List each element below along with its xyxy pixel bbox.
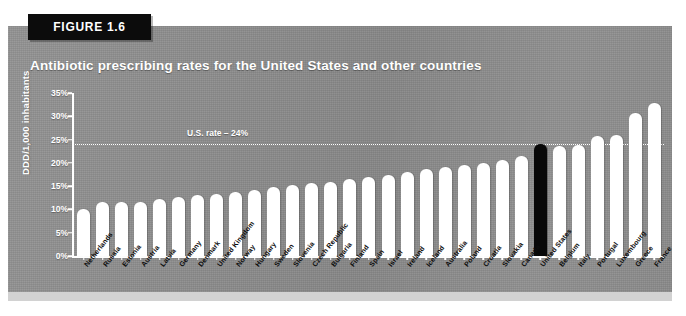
y-axis-tick-label: 20% (51, 158, 68, 168)
x-label-slot: Slovenia (283, 260, 302, 312)
x-label-slot: Estonia (112, 260, 131, 312)
bar-slot (131, 93, 150, 256)
x-label-slot: Austria (131, 260, 150, 312)
bar-france (648, 103, 661, 256)
x-label-slot: Russia (93, 260, 112, 312)
bar-slot (436, 93, 455, 256)
bar-australia (439, 167, 452, 256)
y-axis-tick-mark (68, 162, 72, 164)
bar-slot (74, 93, 93, 256)
figure-badge-label: FIGURE 1.6 (53, 20, 125, 34)
y-axis-tick-label: 30% (51, 111, 68, 121)
bar-slot (493, 93, 512, 256)
y-axis-tick-label: 15% (51, 181, 68, 191)
x-label-slot: Slovakia (493, 260, 512, 312)
bar-slot (150, 93, 169, 256)
bar-slovakia (496, 160, 509, 256)
y-axis-tick-mark (68, 232, 72, 234)
bar-italy (572, 145, 585, 256)
x-label-slot: Greece (626, 260, 645, 312)
x-label-slot: United Kingdom (207, 260, 226, 312)
bar-slot (417, 93, 436, 256)
bar-slot (359, 93, 378, 256)
plot-area: 0%5%10%15%20%25%30%35% U.S. rate – 24% (72, 93, 664, 258)
x-label-slot: United States (531, 260, 550, 312)
x-axis-labels: NetherlandsRussiaEstoniaAustriaLatviaGer… (74, 260, 664, 312)
bar-israel (382, 175, 395, 257)
bar-luxembourg (610, 135, 623, 256)
y-axis-tick-label: 0% (56, 251, 68, 261)
bar-slot (207, 93, 226, 256)
x-label-slot: Australia (436, 260, 455, 312)
bar-slot (455, 93, 474, 256)
x-label-slot: Italy (569, 260, 588, 312)
bar-slot (169, 93, 188, 256)
bar-series (74, 93, 664, 256)
bar-netherlands (77, 209, 90, 256)
y-axis-tick-label: 5% (56, 228, 68, 238)
y-axis-tick-mark (68, 185, 72, 187)
bar-slot (607, 93, 626, 256)
bar-croatia (477, 163, 490, 256)
y-axis-tick-mark (68, 139, 72, 141)
bar-slot (188, 93, 207, 256)
x-label-slot: Croatia (474, 260, 493, 312)
bar-slot (302, 93, 321, 256)
bar-slot (112, 93, 131, 256)
x-label-slot: Norway (226, 260, 245, 312)
y-axis-tick-mark (68, 209, 72, 211)
y-axis-tick-label: 10% (51, 204, 68, 214)
x-label-slot: Luxembourg (607, 260, 626, 312)
y-axis-tick-mark (68, 255, 72, 257)
bar-slot (588, 93, 607, 256)
bar-portugal (591, 136, 604, 256)
x-label-slot: Bulgaria (321, 260, 340, 312)
x-label-slot: Hungary (245, 260, 264, 312)
x-label-slot: Czech Republic (302, 260, 321, 312)
x-label-slot: Netherlands (74, 260, 93, 312)
bar-slot (283, 93, 302, 256)
bar-slot (264, 93, 283, 256)
y-axis-tick-mark (68, 92, 72, 94)
x-label-slot: Canada (512, 260, 531, 312)
bar-iceland (420, 169, 433, 256)
x-label-slot: Finland (340, 260, 359, 312)
x-label-slot: Spain (359, 260, 378, 312)
x-label-slot: Iceland (417, 260, 436, 312)
x-label-slot: Portugal (588, 260, 607, 312)
y-axis-title: DDD/1,000 inhabitants (20, 70, 31, 175)
bar-slot (531, 93, 550, 256)
bar-slot (645, 93, 664, 256)
figure-container: FIGURE 1.6 Antibiotic prescribing rates … (0, 0, 686, 316)
x-label-slot: Israel (379, 260, 398, 312)
bar-slot (379, 93, 398, 256)
x-label-slot: Latvia (150, 260, 169, 312)
figure-badge: FIGURE 1.6 (28, 14, 151, 40)
x-label-slot: Germany (169, 260, 188, 312)
y-axis-tick-label: 35% (51, 88, 68, 98)
y-axis-tick-label: 25% (51, 135, 68, 145)
page-title: Antibiotic prescribing rates for the Uni… (30, 58, 482, 73)
x-label-slot: Belgium (550, 260, 569, 312)
bar-united-states (534, 144, 547, 256)
x-label-slot: Sweden (264, 260, 283, 312)
bar-slot (474, 93, 493, 256)
x-label-slot: Denmark (188, 260, 207, 312)
bar-ireland (401, 172, 414, 256)
x-label-slot: Poland (455, 260, 474, 312)
x-label-slot: France (645, 260, 664, 312)
x-label-slot: Ireland (398, 260, 417, 312)
bar-slot (512, 93, 531, 256)
bar-slot (398, 93, 417, 256)
bar-germany (172, 197, 185, 256)
y-axis-tick-mark (68, 116, 72, 118)
